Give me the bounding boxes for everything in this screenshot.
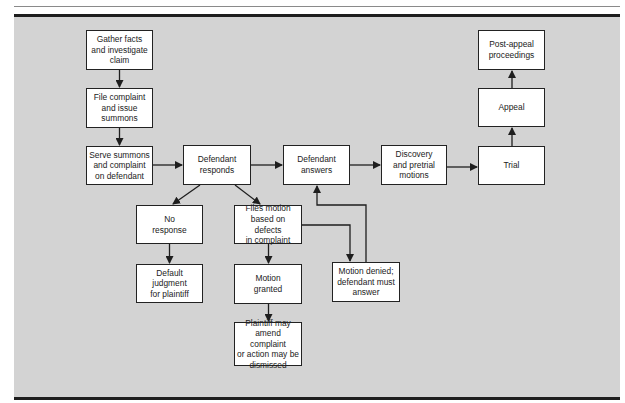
node-gather-facts: Gather facts and investigate claim [86,30,153,70]
node-serve-summons: Serve summons and complaint on defendant [86,146,153,185]
arrow-responds-filesmotion [235,185,260,204]
node-file-complaint: File complaint and issue summons [86,88,153,128]
node-trial: Trial [478,146,545,185]
node-discovery: Discovery and pretrial motions [381,145,447,185]
node-post-appeal: Post-appeal proceedings [478,30,545,70]
node-motion-denied: Motion denied; defendant must answer [332,262,400,302]
arrow-responds-noresponse [173,185,200,204]
node-motion-granted: Motion granted [234,264,302,304]
node-files-motion: Files motion based on defects in complai… [234,205,302,244]
node-no-response: No response [136,205,203,244]
node-default-judgment: Default judgment for plaintiff [136,264,203,303]
node-plaintiff-may-amend: Plaintiff may amend complaint or action … [234,322,302,366]
node-defendant-responds: Defendant responds [183,145,251,185]
arrow-denied-answers [317,186,366,262]
node-defendant-answers: Defendant answers [283,145,350,185]
node-appeal: Appeal [478,88,545,127]
arrow-filesmotion-denied [302,225,350,261]
